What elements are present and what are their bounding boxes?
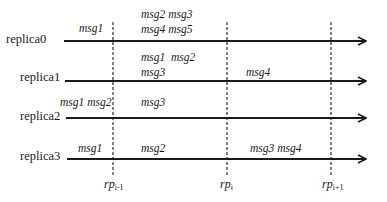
replica0-msg-group-1: msg1 <box>79 23 103 35</box>
checkpoint-rp-i+1-label: rpi+1 <box>322 178 343 192</box>
replica3-label: replica3 <box>20 150 60 163</box>
replica3-msg-group-2: msg2 <box>141 143 165 155</box>
replica1-msg-group-2: msg4 <box>246 67 270 79</box>
replica1-msg-group-1a: msg1 msg2 <box>141 52 195 64</box>
replica3-msg-group-3: msg3 msg4 <box>250 143 301 155</box>
replica2-msg-group-1: msg1 msg2 <box>60 97 111 109</box>
replica1-label: replica1 <box>20 71 60 84</box>
replica3-msg-group-1: msg1 <box>78 143 102 155</box>
replica0-msg-group-2a: msg2 msg3 <box>141 9 192 21</box>
replica0-msg-group-2b: msg4 msg5 <box>141 24 192 36</box>
checkpoint-rp-i-1-label: rpi-1 <box>104 178 124 192</box>
replica2-label: replica2 <box>20 110 60 123</box>
checkpoint-rp-i-label: rpi <box>220 178 233 192</box>
replica0-label: replica0 <box>6 33 46 46</box>
replica2-msg-group-2: msg3 <box>141 97 165 109</box>
diagram-canvas <box>0 0 387 202</box>
replica1-msg-group-1b: msg3 <box>141 67 165 79</box>
